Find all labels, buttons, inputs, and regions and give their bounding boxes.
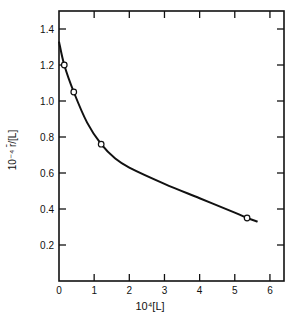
x-tick-label: 2 (127, 285, 133, 296)
y-axis-label: 10⁻⁴ r̄/[L] (6, 130, 18, 171)
data-point-marker (71, 89, 77, 95)
y-tick-label: 0.2 (40, 240, 54, 251)
x-axis-label: 10⁴[L] (135, 300, 164, 312)
x-tick-label: 1 (91, 285, 97, 296)
data-point-marker (98, 141, 104, 147)
y-tick-label: 1.2 (40, 60, 54, 71)
x-axis-ticks: 0123456 (56, 11, 273, 296)
data-point-marker (61, 62, 67, 68)
y-tick-label: 0.8 (40, 132, 54, 143)
y-tick-label: 1.4 (40, 24, 54, 35)
x-tick-label: 0 (56, 285, 62, 296)
y-tick-label: 0.6 (40, 168, 54, 179)
scatchard-plot: 0123456 0.20.40.60.81.01.21.4 10⁴[L] 10⁻… (0, 0, 294, 318)
y-tick-label: 1.0 (40, 96, 54, 107)
y-tick-label: 0.4 (40, 204, 54, 215)
x-tick-label: 6 (267, 285, 273, 296)
x-tick-label: 4 (197, 285, 203, 296)
x-tick-label: 5 (232, 285, 238, 296)
x-tick-label: 3 (162, 285, 168, 296)
fitted-curve (59, 42, 258, 222)
plot-frame (59, 11, 284, 281)
svg-text:10⁻⁴ r̄/[L]: 10⁻⁴ r̄/[L] (6, 130, 18, 171)
data-point-marker (244, 215, 250, 221)
data-points (61, 62, 249, 221)
